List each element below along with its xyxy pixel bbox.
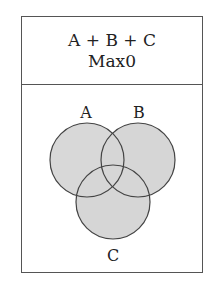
label-a: A <box>79 103 92 122</box>
venn-diagram: A B C <box>0 0 213 292</box>
label-c: C <box>107 246 119 265</box>
label-b: B <box>133 103 145 122</box>
